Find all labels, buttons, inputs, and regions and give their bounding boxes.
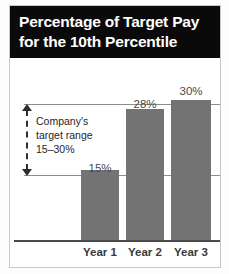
- bar-year-2: [126, 109, 164, 240]
- chart-title-banner: Percentage of Target Pay for the 10th Pe…: [10, 6, 220, 58]
- annotation-line-1: Company's: [36, 114, 122, 128]
- value-label-year-1: 15%: [78, 162, 122, 174]
- bar-year-1: [81, 170, 119, 240]
- arrow-down-icon: [22, 169, 32, 176]
- category-label-year-1: Year 1: [77, 246, 123, 258]
- dashed-connector: [26, 110, 28, 170]
- category-label-year-2: Year 2: [122, 246, 168, 258]
- annotation-line-3: 15–30%: [36, 142, 122, 156]
- category-label-year-3: Year 3: [168, 246, 214, 258]
- axis-baseline: [14, 240, 220, 242]
- plot-area: 15% 28% 30% Year 1 Year 2 Year 3 Company…: [10, 58, 220, 267]
- target-range-annotation: Company's target range 15–30%: [36, 114, 122, 156]
- annotation-line-2: target range: [36, 128, 122, 142]
- chart-figure: Percentage of Target Pay for the 10th Pe…: [0, 0, 229, 274]
- value-label-year-3: 30%: [169, 85, 213, 97]
- value-label-year-2: 28%: [123, 98, 167, 110]
- chart-title-line-1: Percentage of Target Pay: [19, 12, 220, 32]
- bar-year-3: [171, 100, 211, 240]
- double-arrow-vertical-dashed-icon: [22, 104, 32, 176]
- chart-title-line-2: for the 10th Percentile: [19, 32, 220, 52]
